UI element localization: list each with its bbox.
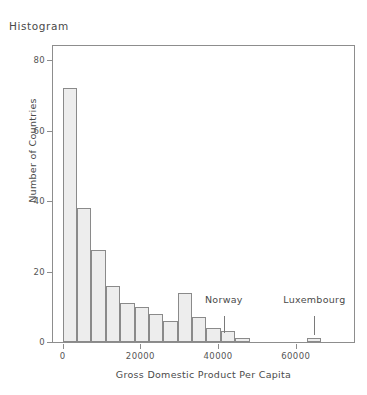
y-axis-tick-label: 80 — [24, 55, 45, 65]
y-axis-tick — [47, 201, 52, 202]
y-axis-label: Number of Countries — [27, 71, 38, 231]
histogram-bar — [106, 286, 120, 342]
annotation-leader-line — [314, 316, 315, 335]
y-axis-tick-label: 60 — [24, 126, 45, 136]
y-axis-tick-label: 20 — [24, 267, 45, 277]
x-axis-tick-label: 0 — [60, 351, 66, 361]
y-axis-tick — [47, 342, 52, 343]
histogram-bar — [206, 328, 220, 342]
y-axis-tick — [47, 60, 52, 61]
annotation-label: Norway — [205, 294, 243, 305]
x-axis-tick — [140, 344, 141, 349]
x-axis-tick — [218, 344, 219, 349]
histogram-bar — [163, 321, 177, 342]
plot-area: NorwayLuxembourg — [53, 46, 354, 342]
x-axis-tick-label: 20000 — [126, 351, 155, 361]
histogram-bar — [120, 303, 134, 342]
chart-title: Histogram — [9, 20, 69, 32]
histogram-bar — [307, 338, 321, 342]
histogram-bar — [63, 88, 77, 342]
x-axis-tick — [63, 344, 64, 349]
x-axis-tick — [296, 344, 297, 349]
histogram-bar — [192, 317, 206, 342]
histogram-bar — [149, 314, 163, 342]
x-axis-label: Gross Domestic Product Per Capita — [52, 369, 355, 380]
x-axis-tick-label: 40000 — [204, 351, 233, 361]
y-axis-tick-label: 0 — [24, 337, 45, 347]
annotation-label: Luxembourg — [283, 294, 345, 305]
y-axis-tick — [47, 131, 52, 132]
y-axis-tick-label: 40 — [24, 196, 45, 206]
histogram-bar — [178, 293, 192, 342]
y-axis-tick — [47, 272, 52, 273]
x-axis-tick-label: 60000 — [281, 351, 310, 361]
histogram-bar — [135, 307, 149, 342]
histogram-figure: Histogram Number of Countries NorwayLuxe… — [0, 0, 367, 395]
histogram-bar — [235, 338, 249, 342]
histogram-bar — [91, 250, 105, 342]
histogram-bar — [77, 208, 91, 342]
annotation-leader-line — [224, 316, 225, 334]
plot-frame: NorwayLuxembourg — [52, 45, 355, 343]
